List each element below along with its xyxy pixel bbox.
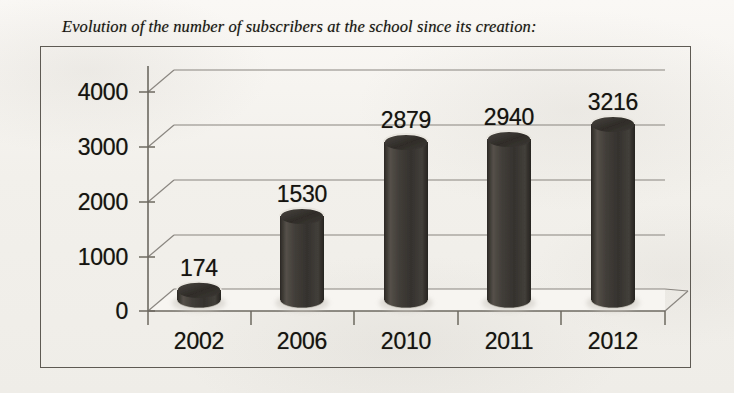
xtick-label-2010: 2010	[358, 328, 454, 355]
chart-screenshot: Evolution of the number of subscribers a…	[0, 0, 734, 393]
x-axis-ticks	[148, 311, 665, 325]
ytick-label-4000: 4000	[36, 79, 128, 106]
bar-value-label-2010: 2879	[358, 107, 454, 134]
ytick-label-1000: 1000	[36, 244, 128, 271]
ytick-label-2000: 2000	[36, 189, 128, 216]
bar-2011	[482, 131, 536, 312]
xtick-label-2006: 2006	[254, 328, 350, 355]
xtick-label-2011: 2011	[461, 328, 557, 355]
ytick-label-3000: 3000	[36, 134, 128, 161]
bar-2006	[275, 208, 329, 312]
bar-2010	[379, 134, 433, 312]
bar-value-label-2006: 1530	[254, 181, 350, 208]
bar-value-label-2011: 2940	[461, 104, 557, 131]
xtick-label-2012: 2012	[565, 328, 661, 355]
ytick-label-0: 0	[36, 298, 128, 325]
xtick-label-2002: 2002	[151, 328, 247, 355]
bar-2002	[172, 282, 226, 312]
bar-2012	[586, 116, 640, 312]
bar-value-label-2002: 174	[151, 255, 247, 282]
bar-value-label-2012: 3216	[565, 89, 661, 116]
